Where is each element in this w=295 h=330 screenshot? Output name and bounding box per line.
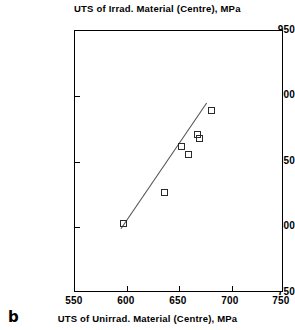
figure-panel: UTS of Irrad. Material (Centre), MPa 950…: [0, 0, 295, 330]
x-axis-title: UTS of Unirrad. Material (Centre), MPa: [0, 313, 295, 324]
x-tick-label-550: 550: [54, 296, 94, 306]
x-tick-label-600: 600: [106, 296, 146, 306]
x-tick-label-700: 700: [210, 296, 250, 306]
chart-title: UTS of Irrad. Material (Centre), MPa: [74, 3, 241, 14]
data-point-marker: [196, 135, 203, 142]
data-point-marker: [185, 151, 192, 158]
data-point-marker: [120, 220, 127, 227]
x-tick-label-750: 750: [261, 296, 295, 306]
data-point-marker: [161, 189, 168, 196]
data-point-marker: [178, 143, 185, 150]
trend-line: [121, 103, 207, 229]
panel-label: b: [8, 308, 19, 326]
plot-area: [74, 30, 283, 292]
data-overlay: [75, 31, 284, 293]
x-tick-label-650: 650: [158, 296, 198, 306]
data-point-marker: [208, 107, 215, 114]
